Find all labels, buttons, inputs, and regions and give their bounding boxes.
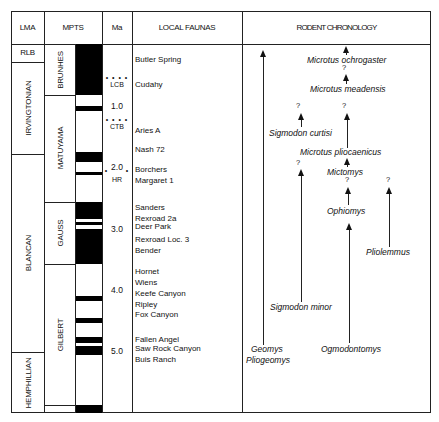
normal-polarity-band	[76, 337, 102, 343]
ma-tick: 1.0	[102, 101, 132, 111]
taxon-label: Ophiomys	[327, 206, 365, 216]
chron-divider	[44, 202, 75, 203]
chron-divider	[44, 95, 75, 96]
lineage-pliocaenicus	[347, 118, 348, 148]
header-divider	[11, 44, 431, 45]
col-divider-rodent	[242, 11, 243, 413]
lma-rlb: RLB	[11, 48, 44, 57]
taxon-label: Microtus pliocaenicus	[300, 147, 381, 157]
lma-blancan: BLANCAN	[24, 235, 33, 271]
normal-polarity-band	[76, 172, 102, 175]
normal-polarity-band	[76, 152, 102, 162]
chron-matuyama: MATUYAMA	[56, 127, 65, 170]
normal-polarity-band	[76, 405, 102, 413]
fauna-item: Nash 72	[135, 145, 165, 154]
chron-gauss: GAUSS	[56, 219, 65, 246]
normal-polarity-band	[76, 202, 102, 219]
ma-tick: 4.0	[102, 285, 132, 295]
normal-polarity-band	[76, 296, 102, 301]
taxon-label: Pliogeomys	[246, 355, 290, 365]
chron-gilbert: GILBERT	[56, 319, 65, 352]
arrowhead-icon	[344, 113, 350, 120]
col-divider-lma	[44, 11, 45, 413]
boundary-ctb: CTB	[102, 123, 132, 130]
lma-divider	[11, 154, 44, 155]
col-divider-faunas	[132, 11, 133, 413]
uncertain-marker: ?	[296, 101, 300, 110]
normal-polarity-band	[76, 346, 102, 355]
lineage-pliolemmus	[389, 193, 390, 247]
boundary-dots: • •	[104, 167, 130, 174]
arrowhead-icon	[386, 187, 392, 194]
boundary-lcb: LCB	[102, 81, 132, 88]
arrowhead-icon	[298, 113, 304, 120]
taxon-label: Sigmodon curtisi	[269, 128, 332, 138]
normal-polarity-band	[76, 106, 102, 111]
normal-polarity-band	[76, 229, 102, 264]
fauna-item: Fallen Angel	[135, 335, 179, 344]
boundary-hr: HR	[102, 176, 132, 183]
lineage-ogmodontomys	[349, 229, 350, 343]
fauna-item: Margaret 1	[135, 176, 174, 185]
taxon-label: Pliolemmus	[366, 247, 410, 257]
arrowhead-icon	[260, 50, 266, 57]
arrowhead-icon	[298, 169, 304, 176]
fauna-item: Borchers	[135, 165, 167, 174]
arrowhead-icon	[343, 74, 349, 81]
normal-polarity-band	[76, 318, 102, 323]
fauna-item: Deer Park	[135, 222, 171, 231]
taxon-label: Geomys	[251, 344, 283, 354]
ma-tick: 3.0	[102, 224, 132, 234]
lineage-sigmodon-minor	[301, 175, 302, 302]
fauna-item: Aries A	[135, 126, 160, 135]
fauna-item: Sanders	[135, 203, 165, 212]
fauna-item: Cudahy	[135, 80, 163, 89]
uncertain-marker: ?	[296, 158, 300, 167]
taxon-label: Sigmodon minor	[270, 302, 332, 312]
normal-polarity-band	[76, 222, 102, 225]
uncertain-marker: ?	[342, 101, 346, 110]
arrowhead-icon	[345, 187, 351, 194]
header-ma: Ma	[102, 23, 132, 32]
normal-polarity-band	[76, 44, 102, 95]
fauna-item: Keefe Canyon	[135, 289, 186, 298]
lma-hemphillian: HEMPHILLIAN	[24, 357, 33, 408]
boundary-dots: • • • •	[104, 116, 130, 123]
header-local-faunas: LOCAL FAUNAS	[132, 23, 242, 32]
header-lma: LMA	[11, 23, 44, 32]
fauna-item: Wiens	[135, 278, 157, 287]
fauna-item: Ripley	[135, 300, 157, 309]
lma-divider	[11, 352, 44, 353]
taxon-label: Microtus meadensis	[310, 84, 386, 94]
fauna-item: Saw Rock Canyon	[135, 344, 201, 353]
ma-tick: 5.0	[102, 346, 132, 356]
taxon-label: Microtus ochrogaster	[307, 55, 386, 65]
boundary-dots: • • • •	[104, 74, 130, 81]
fauna-item: Hornet	[135, 267, 159, 276]
uncertain-marker: ?	[342, 63, 346, 72]
lma-divider	[11, 62, 44, 63]
arrowhead-icon	[344, 158, 350, 165]
lineage-geomys	[263, 56, 264, 345]
fauna-item: Fox Canyon	[135, 310, 178, 319]
arrowhead-icon	[346, 223, 352, 230]
fauna-item: Bender	[135, 246, 161, 255]
taxon-label: Ogmodontomys	[321, 344, 381, 354]
chron-divider	[44, 264, 75, 265]
header-mpts: MPTS	[44, 23, 102, 32]
fauna-item: Butler Spring	[135, 55, 181, 64]
lma-irvingtonian: IRVINGTONIAN	[24, 80, 33, 135]
fauna-item: Buis Ranch	[135, 355, 176, 364]
uncertain-marker: ?	[386, 175, 390, 184]
chron-brunhes: BRUNHES	[56, 51, 65, 89]
header-rodent-chronology: RODENT CHRONOLOGY	[242, 23, 431, 32]
fauna-item: Rexroad Loc. 3	[135, 235, 189, 244]
chron-divider	[44, 405, 75, 406]
uncertain-marker: ?	[345, 175, 349, 184]
